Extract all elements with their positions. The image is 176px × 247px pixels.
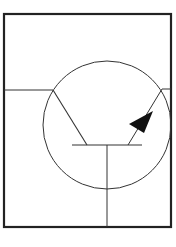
transistor-diagram [0,0,176,247]
emitter-arrow-icon [129,111,153,133]
collector-lead [53,90,87,145]
